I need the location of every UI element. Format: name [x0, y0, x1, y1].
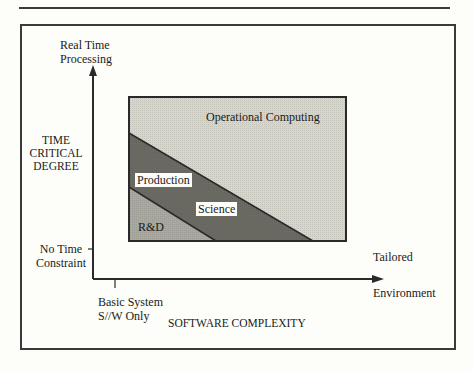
x-axis-right-label-bottom: Environment [373, 286, 436, 300]
y-axis-bottom-label-line1: No Time [34, 242, 88, 256]
x-axis-right-label-top: Tailored [373, 250, 413, 264]
y-axis-bottom-label-line2: Constraint [34, 256, 88, 270]
operational-computing-label: Operational Computing [206, 110, 320, 124]
x-axis-left-label-line1: Basic System [98, 295, 163, 309]
production-label: Production [135, 173, 192, 187]
y-axis-top-label-line1: Real Time [60, 38, 112, 52]
rnd-label: R&D [138, 220, 164, 234]
science-label: Science [196, 202, 237, 216]
x-axis-left-label-line2: S//W Only [98, 309, 163, 323]
x-axis-title: SOFTWARE COMPLEXITY [168, 316, 306, 330]
y-axis-arrowhead-icon [89, 65, 97, 76]
x-axis-left-label: Basic System S//W Only [98, 295, 163, 323]
y-axis-title-line2: CRITICAL [26, 147, 86, 160]
y-axis-top-label: Real Time Processing [60, 38, 112, 66]
y-axis-bottom-label: No Time Constraint [34, 242, 88, 270]
y-axis-title: TIME CRITICAL DEGREE [26, 134, 86, 173]
x-axis-arrowhead-icon [372, 275, 384, 283]
y-axis-top-label-line2: Processing [60, 52, 112, 66]
y-axis-title-line3: DEGREE [26, 160, 86, 173]
y-axis-title-line1: TIME [26, 134, 86, 147]
